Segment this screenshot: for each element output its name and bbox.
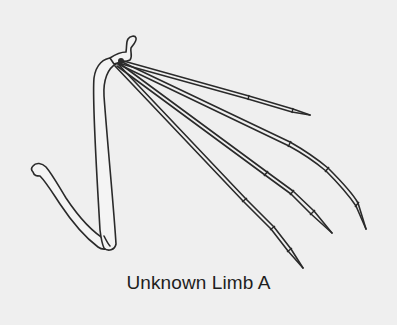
radius-bone	[93, 58, 116, 250]
wrist-hub	[118, 58, 124, 64]
figure-caption: Unknown Limb A	[0, 272, 397, 294]
digit-2	[118, 61, 366, 229]
digit-4	[115, 64, 303, 268]
